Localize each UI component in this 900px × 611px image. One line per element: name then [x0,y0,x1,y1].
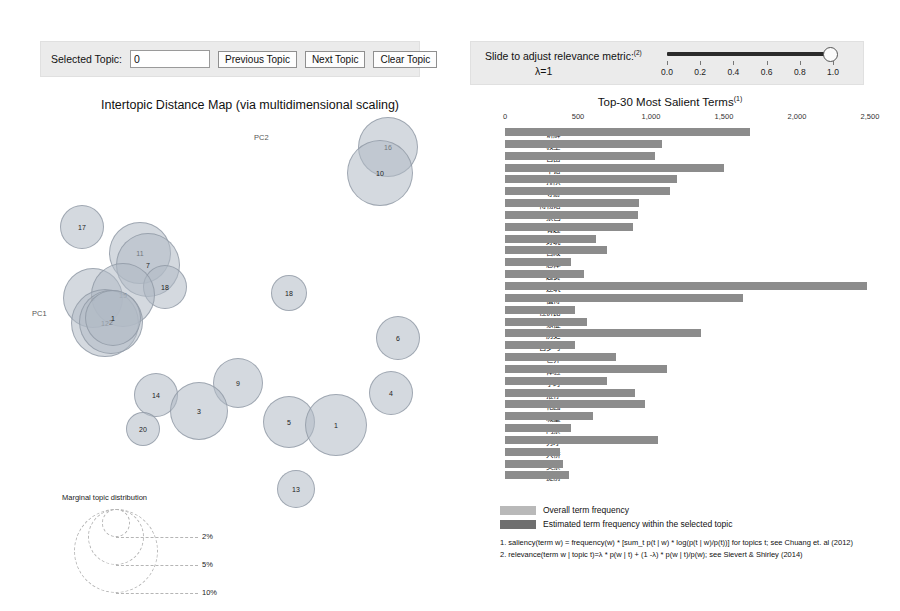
bar-row[interactable]: 自由 [470,151,870,163]
bar-row[interactable]: 大桥 [470,447,870,459]
bar-row[interactable]: 导游 [470,186,870,198]
marginal-leader-5pct [116,565,198,566]
bar-rect[interactable] [505,211,638,219]
bar-rect[interactable] [505,341,575,349]
bar-rect[interactable] [505,164,724,172]
previous-topic-button[interactable]: Previous Topic [218,51,297,68]
bar-row[interactable]: 推荐 [470,388,870,400]
bar-row[interactable]: 历史 [470,328,870,340]
legend-item-overall: Overall term frequency [500,503,890,517]
relevance-slider-handle[interactable] [823,47,838,62]
x-axis-tick-label: 500 [572,112,585,121]
bar-rect[interactable] [505,365,667,373]
bar-rect[interactable] [505,128,750,136]
bar-row[interactable]: 买票 [470,459,870,471]
bar-row[interactable]: 城堡 [470,411,870,423]
topic-bubble-label: 17 [78,224,86,231]
slider-tick-label: 0.0 [661,67,673,77]
bar-rect[interactable] [505,140,662,148]
bar-rect[interactable] [505,282,867,290]
bar-row[interactable]: 花园 [470,399,870,411]
relevance-slider-ticks: 0.00.20.40.60.81.0 [667,61,833,79]
bar-row[interactable]: 总体 [470,257,870,269]
legend-swatch-overall [500,506,536,515]
bar-rect[interactable] [505,400,645,408]
bar-rect[interactable] [505,424,571,432]
bar-row[interactable]: 景色 [470,210,870,222]
slider-tick [833,61,834,65]
topic-bubble-label: 20 [139,426,147,433]
footnotes: 1. saliency(term w) = frequency(w) * [su… [500,537,895,560]
bar-rect[interactable] [505,187,670,195]
topic-bubble-label: 7 [146,262,150,269]
bar-rect[interactable] [505,460,563,468]
relevance-slider-track[interactable] [667,52,833,56]
bar-rect[interactable] [505,199,639,207]
bar-rect[interactable] [505,152,655,160]
bar-row[interactable]: 建筑 [470,281,870,293]
slider-tick [767,61,768,65]
bar-row[interactable]: 宫殿 [470,245,870,257]
bar-row[interactable]: 象征 [470,317,870,329]
bar-row[interactable]: 性价比 [470,305,870,317]
marginal-topic-distribution-legend: Marginal topic distribution 2% 5% 10% [62,493,252,598]
bar-row[interactable]: 世界 [470,352,870,364]
bar-rect[interactable] [505,471,569,479]
bar-row[interactable]: 门票 [470,423,870,435]
bar-row[interactable]: 体验 [470,364,870,376]
bar-rect[interactable] [505,306,575,314]
slider-tick [733,61,734,65]
bar-row[interactable]: 讲解 [470,127,870,139]
legend-label-selected: Estimated term frequency within the sele… [543,519,732,529]
footnote-relevance: 2. relevance(term w | topic t)=λ * p(w |… [500,549,895,561]
relevance-slider-bar: Slide to adjust relevance metric:(2) λ=1… [470,41,864,85]
bar-chart-rows: 讲解教堂自由不错排队导游博物馆景色有趣好玩宫殿总体超赞建筑值得性价比象征历史古罗… [470,127,870,482]
legend-swatch-selected [500,520,536,529]
axis-label-pc1: PC1 [32,309,47,318]
slider-tick-label: 0.4 [727,67,739,77]
bar-rect[interactable] [505,223,633,231]
bar-rect[interactable] [505,175,677,183]
topic-bubble-label: 9 [236,380,240,387]
topic-bubble-label: 3 [197,408,201,415]
bar-rect[interactable] [505,329,701,337]
bar-rect[interactable] [505,246,607,254]
x-axis-tick-label: 2,000 [788,112,807,121]
bar-row[interactable]: 小时 [470,376,870,388]
bar-row[interactable]: 有趣 [470,222,870,234]
footnote-saliency: 1. saliency(term w) = frequency(w) * [su… [500,537,895,549]
bar-rect[interactable] [505,270,584,278]
bar-rect[interactable] [505,436,658,444]
bar-rect[interactable] [505,318,587,326]
relevance-slider-footnote-ref: (2) [634,49,642,56]
bar-row[interactable]: 好玩 [470,234,870,246]
topic-bubble-label: 1 [111,315,115,322]
bar-rect[interactable] [505,294,743,302]
bar-row[interactable]: 值得 [470,293,870,305]
bar-row[interactable]: 提前 [470,470,870,482]
salient-terms-bar-chart[interactable]: 05001,0001,5002,0002,500 讲解教堂自由不错排队导游博物馆… [470,112,870,507]
clear-topic-button[interactable]: Clear Topic [373,51,437,68]
bar-rect[interactable] [505,412,593,420]
selected-topic-input[interactable] [130,50,210,68]
intertopic-distance-map[interactable]: PC2 PC1 16101711718815122118694143205113… [40,115,465,595]
topic-bubble-label: 6 [396,335,400,342]
bar-row[interactable]: 不错 [470,163,870,175]
marginal-circle-10pct [74,509,158,593]
next-topic-button[interactable]: Next Topic [305,51,366,68]
legend-label-overall: Overall term frequency [543,505,629,515]
bar-row[interactable]: 超赞 [470,269,870,281]
bar-row[interactable]: 博物馆 [470,198,870,210]
bar-rect[interactable] [505,235,596,243]
bar-row[interactable]: 秀才 [470,435,870,447]
bar-row[interactable]: 古罗马 [470,340,870,352]
bar-rect[interactable] [505,448,560,456]
x-axis-tick-label: 1,000 [642,112,661,121]
bar-row[interactable]: 排队 [470,174,870,186]
relevance-slider-caption-text: Slide to adjust relevance metric: [485,50,634,62]
bar-rect[interactable] [505,258,571,266]
bar-row[interactable]: 教堂 [470,139,870,151]
bar-rect[interactable] [505,353,616,361]
bar-rect[interactable] [505,389,635,397]
bar-rect[interactable] [505,377,607,385]
